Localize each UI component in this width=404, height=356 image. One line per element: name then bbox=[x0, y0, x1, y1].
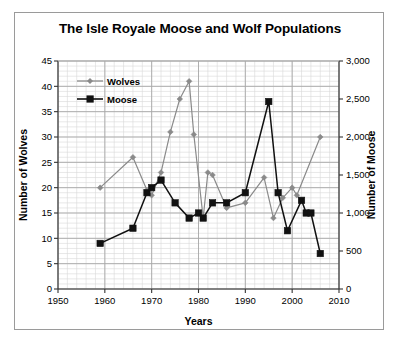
y-tick-label-left: 5 bbox=[47, 258, 52, 269]
x-axis-title: Years bbox=[184, 315, 212, 327]
data-point-moose bbox=[97, 240, 103, 246]
data-point-moose bbox=[284, 228, 290, 234]
x-tick-label: 2000 bbox=[282, 295, 303, 306]
data-point-wolves bbox=[205, 170, 211, 176]
y-tick-label-right: 500 bbox=[346, 245, 362, 256]
y-tick-label-left: 45 bbox=[41, 55, 52, 66]
data-point-wolves bbox=[168, 129, 174, 135]
y-axis-title-right: Number of Moose bbox=[365, 131, 377, 220]
legend-label-moose: Moose bbox=[107, 94, 137, 105]
y-tick-label-right: 2,500 bbox=[346, 93, 370, 104]
y-axis-title-left: Number of Wolves bbox=[17, 129, 29, 221]
data-point-wolves bbox=[317, 134, 323, 140]
legend-marker-wolves bbox=[87, 78, 93, 84]
y-tick-label-right: 0 bbox=[346, 283, 351, 294]
data-point-moose bbox=[266, 98, 272, 104]
data-point-moose bbox=[242, 190, 248, 196]
data-point-moose bbox=[148, 184, 154, 190]
chart-frame: The Isle Royale Moose and Wolf Populatio… bbox=[14, 12, 384, 330]
chart-plot-area: 05101520253035404505001,0001,5002,0002,5… bbox=[15, 13, 385, 331]
chart-svg: 05101520253035404505001,0001,5002,0002,5… bbox=[15, 13, 385, 331]
data-point-wolves bbox=[177, 96, 183, 102]
y-tick-label-left: 20 bbox=[41, 182, 52, 193]
data-point-moose bbox=[186, 215, 192, 221]
data-point-moose bbox=[130, 225, 136, 231]
data-point-wolves bbox=[271, 215, 277, 221]
x-tick-label: 1960 bbox=[94, 295, 115, 306]
data-point-moose bbox=[317, 250, 323, 256]
data-point-wolves bbox=[158, 170, 164, 176]
data-point-moose bbox=[172, 200, 178, 206]
data-point-wolves bbox=[191, 132, 197, 138]
y-tick-label-left: 10 bbox=[41, 233, 52, 244]
x-tick-label: 1990 bbox=[235, 295, 256, 306]
x-tick-label: 2010 bbox=[328, 295, 349, 306]
y-tick-label-right: 3,000 bbox=[346, 55, 370, 66]
data-point-moose bbox=[275, 190, 281, 196]
y-tick-label-left: 0 bbox=[47, 283, 52, 294]
x-tick-label: 1970 bbox=[141, 295, 162, 306]
data-point-moose bbox=[223, 200, 229, 206]
y-tick-label-left: 30 bbox=[41, 131, 52, 142]
y-tick-label-left: 40 bbox=[41, 81, 52, 92]
data-point-moose bbox=[308, 210, 314, 216]
data-point-moose bbox=[298, 197, 304, 203]
data-point-moose bbox=[209, 200, 215, 206]
x-tick-label: 1950 bbox=[47, 295, 68, 306]
data-point-wolves bbox=[210, 172, 216, 178]
data-point-wolves bbox=[186, 78, 192, 84]
y-tick-label-left: 35 bbox=[41, 106, 52, 117]
legend-marker-moose bbox=[87, 95, 94, 102]
data-point-moose bbox=[200, 215, 206, 221]
legend-label-wolves: Wolves bbox=[107, 76, 140, 87]
y-tick-label-left: 15 bbox=[41, 207, 52, 218]
x-tick-label: 1980 bbox=[188, 295, 209, 306]
y-tick-label-left: 25 bbox=[41, 157, 52, 168]
data-point-moose bbox=[158, 177, 164, 183]
